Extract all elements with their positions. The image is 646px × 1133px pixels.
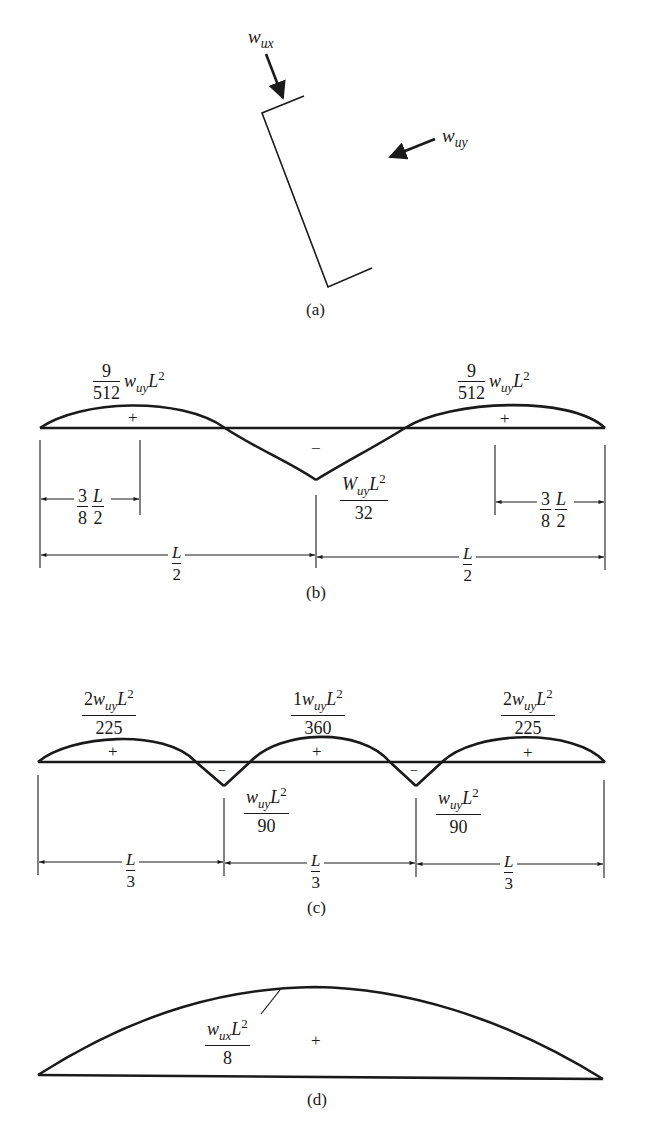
dim-b-left-3-8-L-2: 38 L2 [74,487,111,527]
label-wuy: wuy [442,126,468,149]
load-arrow-wuy [390,139,435,157]
channel-section [262,96,372,287]
label-c-neg-left: wuyL2 90 [244,786,289,835]
caption-c: (c) [307,898,326,918]
label-b-right-peak: 9512 wuyL2 [458,362,530,402]
caption-a: (a) [306,300,325,320]
label-b-left-peak: 9512 wuyL2 [93,362,165,402]
minus-sign-b: − [311,439,321,459]
dim-b-half-span-left: L2 [168,544,185,583]
load-arrow-wux [266,54,283,98]
dim-c-span-1: L3 [122,851,139,890]
plus-sign-d: + [311,1031,321,1051]
plus-sign-b-left: + [128,408,138,428]
moment-diagram-b [40,405,605,480]
caption-b: (b) [306,583,326,603]
label-c-mid-peak: 1wuyL2 360 [291,688,345,737]
label-d-peak: wuxL2 8 [205,1018,250,1067]
plus-sign-c-mid: + [312,742,322,762]
dimension-lines-b [40,440,605,570]
dim-c-span-3: L3 [500,853,517,892]
label-b-center-neg: WuyL2 32 [340,473,388,522]
plus-sign-c-left: + [108,742,118,762]
label-c-right-peak: 2wuyL2 225 [501,688,555,737]
plus-sign-b-right: + [500,409,510,429]
label-wux: wux [248,27,274,50]
minus-sign-c-right: − [410,763,418,779]
label-c-left-peak: 2wuyL2 225 [82,688,136,737]
dim-b-half-span-right: L2 [459,545,476,584]
plus-sign-c-right: + [523,743,533,763]
label-c-neg-right: wuyL2 90 [436,787,481,836]
dim-c-span-2: L3 [307,852,324,891]
minus-sign-c-left: − [218,763,226,779]
diagram-canvas [0,0,646,1133]
dim-b-right-3-8-L-2: 38 L2 [537,490,574,530]
caption-d: (d) [307,1090,327,1110]
